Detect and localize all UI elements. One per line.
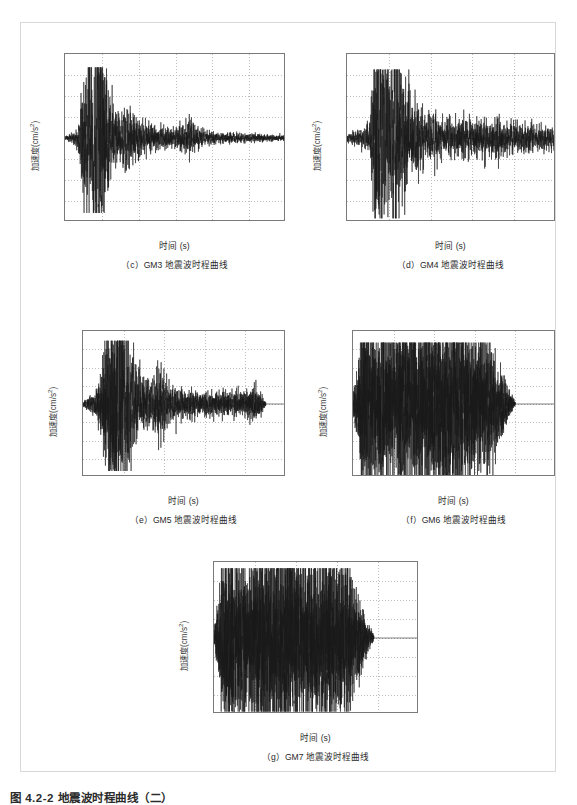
figure-border [20, 22, 556, 772]
figure-caption: 图 4.2-2 地震波时程曲线（二） [10, 789, 173, 805]
